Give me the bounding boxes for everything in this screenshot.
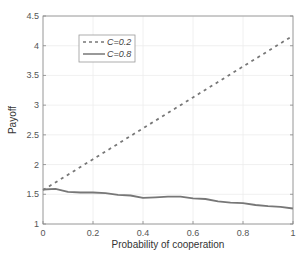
- legend: C=0.2 C=0.8: [79, 35, 135, 62]
- y-tick-label: 1.5: [26, 189, 39, 199]
- y-tick-label: 1: [34, 219, 39, 229]
- axis-ticks: 00.20.40.60.8111.522.533.544.5: [26, 11, 295, 238]
- x-tick-label: 1: [290, 228, 295, 238]
- series-line-c08: [43, 189, 293, 209]
- legend-label-c08: C=0.8: [107, 49, 131, 59]
- y-axis-label: Payoff: [7, 106, 18, 134]
- x-axis-label: Probability of cooperation: [112, 239, 225, 250]
- x-tick-label: 0.2: [87, 228, 100, 238]
- x-tick-label: 0.4: [137, 228, 150, 238]
- x-tick-label: 0: [40, 228, 45, 238]
- y-tick-label: 4: [34, 41, 39, 51]
- y-tick-label: 4.5: [26, 11, 39, 21]
- y-tick-label: 3: [34, 100, 39, 110]
- y-tick-label: 2: [34, 160, 39, 170]
- y-tick-label: 2.5: [26, 130, 39, 140]
- y-tick-label: 3.5: [26, 70, 39, 80]
- x-tick-label: 0.8: [237, 228, 250, 238]
- legend-label-c02: C=0.2: [107, 37, 131, 47]
- x-tick-label: 0.6: [187, 228, 200, 238]
- line-chart: 00.20.40.60.8111.522.533.544.5 Probabili…: [0, 0, 308, 255]
